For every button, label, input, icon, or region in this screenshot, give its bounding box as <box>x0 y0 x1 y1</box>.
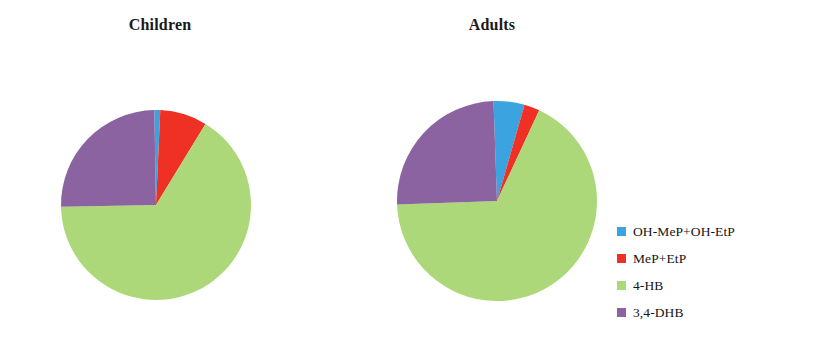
legend-label-1: MeP+EtP <box>633 251 686 267</box>
legend-item-2: 4-HB <box>617 272 817 299</box>
legend-swatch-34-dhb <box>617 308 626 317</box>
legend-swatch-4-hb <box>617 281 626 290</box>
legend-label-3: 3,4-DHB <box>633 305 684 321</box>
legend-item-0: OH-MeP+OH-EtP <box>617 218 817 245</box>
chart-title-children: Children <box>60 16 260 34</box>
pie-slice-3-4-dhb <box>397 101 497 204</box>
pie-slice-3-4-dhb <box>61 110 156 207</box>
legend-swatch-oh-mep-oh-etp <box>617 227 626 236</box>
chart-title-adults: Adults <box>392 16 592 34</box>
chart-legend: OH-MeP+OH-EtPMeP+EtP4-HB3,4-DHB <box>617 218 817 326</box>
legend-item-3: 3,4-DHB <box>617 299 817 326</box>
pie-chart-adults <box>394 98 600 304</box>
legend-item-1: MeP+EtP <box>617 245 817 272</box>
pie-children-svg <box>58 107 254 303</box>
legend-swatch-mep-etp <box>617 254 626 263</box>
pie-adults-svg <box>394 98 600 304</box>
legend-label-2: 4-HB <box>633 278 663 294</box>
pie-chart-figure: Children Adults OH-MeP+OH-EtPMeP+EtP4-HB… <box>0 0 817 349</box>
legend-label-0: OH-MeP+OH-EtP <box>633 224 735 240</box>
pie-chart-children <box>58 107 254 303</box>
